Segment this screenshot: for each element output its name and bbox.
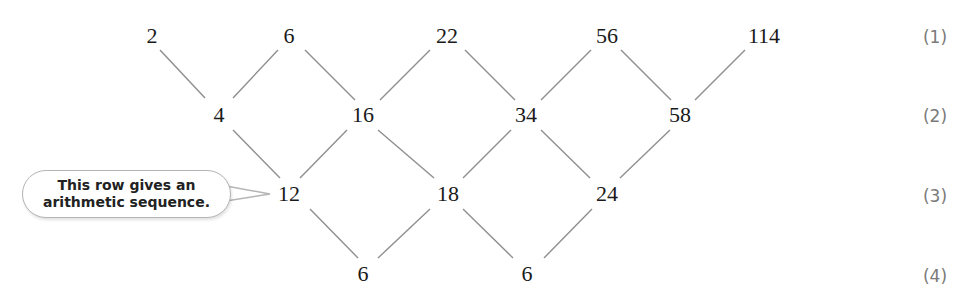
row-label-3: (3): [923, 186, 947, 206]
callout-bubble: This row gives an arithmetic sequence.: [22, 170, 231, 218]
row3-value: 18: [437, 181, 459, 207]
row1-value: 6: [284, 23, 295, 49]
difference-lines: [0, 0, 966, 302]
row3-value: 24: [596, 181, 618, 207]
row1-value: 56: [596, 23, 618, 49]
row1-value: 114: [748, 23, 780, 49]
row1-value: 2: [147, 23, 158, 49]
row-label-1: (1): [923, 27, 947, 47]
row2-value: 58: [669, 102, 691, 128]
row-label-4: (4): [923, 266, 947, 286]
row4-value: 6: [358, 261, 369, 287]
row2-value: 34: [515, 102, 537, 128]
row-label-2: (2): [923, 106, 947, 126]
callout-line-1: This row gives an: [58, 177, 196, 194]
row2-value: 16: [352, 102, 374, 128]
row1-value: 22: [436, 23, 458, 49]
row3-value: 12: [278, 181, 300, 207]
row4-value: 6: [522, 261, 533, 287]
callout-line-2: arithmetic sequence.: [43, 194, 210, 211]
row2-value: 4: [214, 102, 225, 128]
